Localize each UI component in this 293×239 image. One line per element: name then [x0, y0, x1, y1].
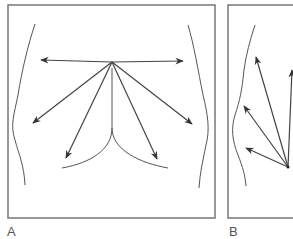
- panel-a: [8, 5, 215, 218]
- arrow-lower-left: [33, 62, 112, 123]
- arrow-down-right: [112, 62, 157, 159]
- body-outline-lateral: [233, 25, 255, 186]
- arrow-lower-right: [112, 62, 192, 124]
- arrow-b-up-left: [256, 57, 288, 167]
- panel-a-label: A: [7, 224, 16, 239]
- arrow-b-left-mid: [244, 106, 288, 167]
- arrow-down-left: [66, 62, 112, 158]
- diagram-canvas: [0, 0, 293, 239]
- body-outline-left: [13, 24, 35, 185]
- origin-point-b: [287, 166, 290, 169]
- arrow-left-horizontal: [41, 60, 112, 62]
- panel-b: [228, 5, 293, 218]
- midline-curve: [62, 68, 112, 168]
- body-outline-right: [188, 25, 208, 188]
- panel-b-label: B: [229, 224, 238, 239]
- arrow-right-horizontal: [112, 61, 183, 62]
- panel-b-frame: [228, 5, 293, 218]
- midline-curve-right: [112, 128, 168, 168]
- arrow-b-up: [288, 70, 292, 167]
